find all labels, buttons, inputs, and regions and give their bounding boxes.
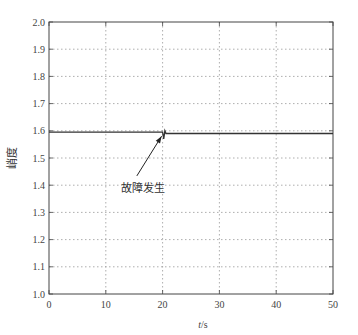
x-tick-label: 50 (328, 299, 338, 310)
y-tick-label: 1.1 (33, 261, 46, 272)
kurtosis-line (49, 131, 333, 139)
y-tick-label: 1.8 (33, 71, 46, 82)
kurtosis-chart: 010203040501.01.11.21.31.41.51.61.71.81.… (0, 0, 358, 335)
y-tick-label: 1.9 (33, 44, 46, 55)
x-tick-label: 40 (271, 299, 281, 310)
annotation-arrow-head-icon (156, 136, 162, 143)
y-tick-label: 1.3 (33, 207, 46, 218)
x-tick-label: 20 (158, 299, 168, 310)
x-tick-label: 10 (101, 299, 111, 310)
y-tick-label: 1.6 (33, 125, 46, 136)
x-axis-label: t/s (198, 319, 208, 330)
y-tick-label: 1.4 (33, 180, 46, 191)
y-tick-label: 1.7 (33, 98, 46, 109)
annotation-label: 故障发生 (121, 181, 165, 195)
y-tick-label: 1.0 (33, 289, 46, 300)
y-axis-label: 峭度 (5, 147, 19, 169)
annotation-arrow-line (137, 136, 162, 176)
y-tick-label: 2.0 (33, 17, 46, 28)
x-tick-label: 0 (47, 299, 52, 310)
y-tick-label: 1.2 (33, 234, 46, 245)
y-tick-label: 1.5 (33, 153, 46, 164)
x-tick-label: 30 (214, 299, 224, 310)
